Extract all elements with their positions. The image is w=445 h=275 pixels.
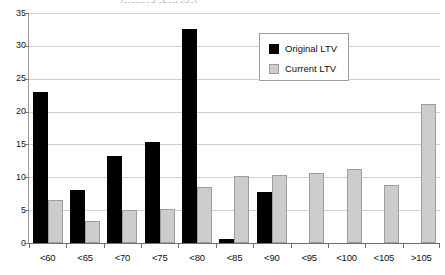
bar-group (365, 13, 402, 243)
y-tick-label: 15 (4, 140, 26, 149)
x-tick-mark (403, 243, 440, 249)
x-tick-label: <70 (104, 252, 141, 266)
bar-group (216, 13, 253, 243)
x-tick-label: <85 (216, 252, 253, 266)
black-square-swatch-icon (269, 44, 279, 54)
x-tick-mark (141, 243, 178, 249)
y-tick-label: 25 (4, 74, 26, 83)
y-axis-labels: 05101520253035 (0, 0, 26, 275)
x-tick-mark (365, 243, 402, 249)
y-tick-label: 30 (4, 41, 26, 50)
bar-current (384, 185, 399, 243)
bar-original (107, 156, 122, 243)
x-tick-label: <90 (253, 252, 290, 266)
bar-current (197, 187, 212, 244)
x-tick-label: <105 (365, 252, 402, 266)
x-tick-label: <60 (29, 252, 66, 266)
legend-item-original: Original LTV (269, 40, 348, 58)
bar-original (145, 142, 160, 243)
bar-current (421, 104, 436, 243)
x-tick-mark (291, 243, 328, 249)
x-tick-mark (178, 243, 215, 249)
bar-group (66, 13, 103, 243)
x-tick-label: <65 (66, 252, 103, 266)
x-tick-mark (29, 243, 66, 249)
y-tick-label: 20 (4, 107, 26, 116)
y-tick-label: 10 (4, 173, 26, 182)
x-tick-label: <95 (291, 252, 328, 266)
x-tick-label: <80 (178, 252, 215, 266)
bar-current (347, 169, 362, 243)
bar-current (85, 221, 100, 243)
legend-label-current: Current LTV (285, 64, 336, 74)
x-tick-label: >105 (403, 252, 440, 266)
legend-label-original: Original LTV (285, 44, 337, 54)
bar-group (29, 13, 66, 243)
x-tick-mark (66, 243, 103, 249)
bar-current (309, 173, 324, 243)
x-tick-label: <100 (328, 252, 365, 266)
legend-item-current: Current LTV (269, 60, 348, 78)
bar-current (160, 209, 175, 243)
x-tick-label: <75 (141, 252, 178, 266)
bar-group (141, 13, 178, 243)
bar-current (48, 200, 63, 243)
bar-group (403, 13, 440, 243)
ltv-distribution-bar-chart: (cropped chart title) 05101520253035 <60… (0, 0, 445, 275)
bar-current (122, 210, 137, 244)
x-tick-mark (216, 243, 253, 249)
bar-groups (29, 13, 440, 243)
bar-original (70, 190, 85, 243)
x-tick-mark (328, 243, 365, 249)
y-tick-label: 0 (4, 239, 26, 248)
x-tick-mark (104, 243, 141, 249)
chart-legend: Original LTV Current LTV (259, 33, 349, 81)
x-axis-ticks (29, 243, 440, 249)
x-tick-mark (253, 243, 290, 249)
x-axis-labels: <60<65<70<75<80<85<90<95<100<105>105 (29, 252, 440, 266)
bar-current (234, 176, 249, 243)
bar-current (272, 175, 287, 243)
bar-group (178, 13, 215, 243)
bar-group (104, 13, 141, 243)
y-tick-label: 5 (4, 206, 26, 215)
bar-original (257, 192, 272, 243)
chart-title-remnant: (cropped chart title) (120, 0, 335, 3)
gray-square-swatch-icon (269, 64, 279, 74)
y-tick-label: 35 (4, 9, 26, 18)
bar-original (182, 29, 197, 243)
bar-original (33, 92, 48, 243)
